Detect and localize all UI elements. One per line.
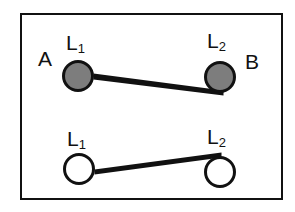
node-label-bottom-left-sub: 1 [79, 137, 86, 152]
node-label-bottom-left: L1 [67, 128, 86, 149]
node-top-right [206, 63, 235, 92]
side-label-b: B [245, 51, 259, 72]
node-label-bottom-right-text: L [207, 125, 219, 148]
node-label-bottom-left-text: L [67, 127, 79, 150]
connector-top-row [94, 74, 224, 96]
diagram-canvas: L1 L2 L1 L2 A B [0, 0, 295, 212]
side-label-a: A [38, 48, 52, 69]
node-top-left [64, 62, 93, 91]
connector-bottom-row [95, 153, 222, 175]
node-label-top-right: L2 [207, 30, 226, 51]
node-label-top-left-text: L [66, 31, 78, 54]
node-bottom-right [206, 158, 235, 187]
node-label-top-right-sub: 2 [219, 39, 226, 54]
node-label-top-left: L1 [66, 32, 85, 53]
node-label-bottom-right: L2 [207, 126, 226, 147]
node-label-bottom-right-sub: 2 [219, 135, 226, 150]
node-label-top-right-text: L [207, 29, 219, 52]
diagram-drawing [0, 0, 295, 212]
node-label-top-left-sub: 1 [78, 41, 85, 56]
node-bottom-left [65, 155, 94, 184]
